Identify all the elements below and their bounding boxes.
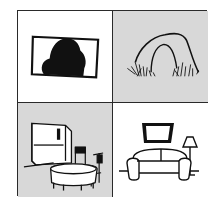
panel-rock-arch [113,11,208,103]
panel-picture-frame [18,11,113,103]
rock-arch-icon [113,11,208,102]
panel-living-room [113,103,208,197]
kitchen-icon [18,103,112,197]
image-grid [17,10,207,196]
picture-frame-icon [18,11,112,102]
panel-kitchen [18,103,113,197]
living-room-icon [113,103,208,197]
